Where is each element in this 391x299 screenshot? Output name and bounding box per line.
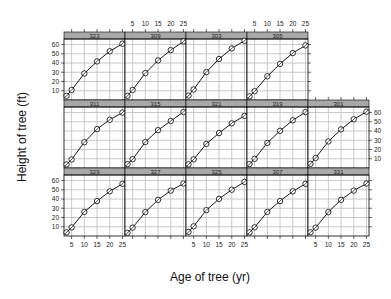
panel-327: 327 (125, 168, 186, 236)
tick-label: 50 (52, 50, 60, 57)
strip-label: 315 (150, 101, 161, 107)
strip-label: 301 (333, 101, 344, 107)
strip-label: 311 (90, 101, 100, 107)
x-axis-label: Age of tree (yr) (140, 270, 280, 284)
tick-label: 10 (203, 241, 211, 248)
strip-label: 319 (272, 101, 283, 107)
tick-label: 50 (52, 186, 60, 193)
strip-label: 327 (150, 169, 161, 175)
tick-label: 15 (154, 20, 162, 27)
tick-label: 50 (374, 118, 382, 125)
tick-label: 40 (52, 195, 60, 202)
panel-321: 321 (186, 100, 247, 168)
panel-309: 309 (125, 32, 186, 100)
tick-label: 10 (374, 155, 382, 162)
tick-label: 20 (52, 214, 60, 221)
tick-label: 10 (52, 87, 60, 94)
tick-label: 15 (276, 20, 284, 27)
panel-319: 319 (247, 100, 308, 168)
tick-label: 60 (374, 109, 382, 116)
tick-label: 5 (314, 241, 318, 248)
strip-label: 309 (150, 33, 161, 39)
tick-label: 30 (52, 205, 60, 212)
tick-label: 15 (337, 241, 345, 248)
panel-311: 311 (64, 100, 125, 168)
panel-301: 301 (308, 100, 369, 168)
tick-label: 10 (52, 223, 60, 230)
tick-label: 5 (253, 20, 257, 27)
strip-label: 321 (211, 101, 222, 107)
panel-331: 331 (308, 168, 369, 236)
tick-label: 20 (167, 20, 175, 27)
tick-label: 5 (192, 241, 196, 248)
strip-label: 307 (272, 169, 283, 175)
tick-label: 20 (289, 20, 297, 27)
y-axis-label: Height of tree (ft) (15, 77, 29, 197)
tick-label: 60 (52, 41, 60, 48)
tick-label: 5 (70, 241, 74, 248)
tick-label: 20 (106, 241, 114, 248)
tick-label: 30 (52, 69, 60, 76)
tick-label: 20 (228, 241, 236, 248)
panel-329: 329 (64, 168, 125, 236)
panel-323: 323 (64, 32, 125, 100)
panel-305: 305 (247, 32, 308, 100)
tick-label: 25 (302, 20, 310, 27)
strip-label: 329 (89, 169, 100, 175)
panel-315: 315 (125, 100, 186, 168)
tick-label: 10 (142, 20, 150, 27)
tick-label: 25 (119, 241, 127, 248)
strip-label: 331 (333, 169, 344, 175)
strip-label: 323 (89, 33, 100, 39)
panel-307: 307 (247, 168, 308, 236)
tick-label: 40 (52, 59, 60, 66)
tick-label: 25 (180, 20, 188, 27)
panel-303: 303 (186, 32, 247, 100)
strip-label: 325 (211, 169, 222, 175)
tick-label: 10 (81, 241, 89, 248)
tick-label: 5 (131, 20, 135, 27)
strip-label: 305 (272, 33, 283, 39)
tick-label: 40 (374, 127, 382, 134)
tick-label: 25 (241, 241, 249, 248)
tick-label: 15 (93, 241, 101, 248)
tick-label: 15 (215, 241, 223, 248)
tick-label: 30 (374, 137, 382, 144)
trellis-chart: 3233093033053113153213193013293273253073… (0, 0, 391, 299)
tick-label: 60 (52, 177, 60, 184)
tick-label: 20 (52, 78, 60, 85)
tick-label: 10 (325, 241, 333, 248)
panel-325: 325 (186, 168, 247, 236)
tick-label: 20 (350, 241, 358, 248)
tick-label: 20 (374, 146, 382, 153)
strip-label: 303 (211, 33, 222, 39)
tick-label: 25 (363, 241, 371, 248)
tick-label: 10 (264, 20, 272, 27)
